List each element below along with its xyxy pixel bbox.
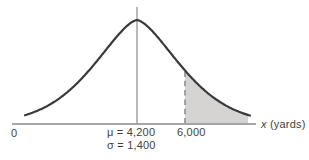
shaded-right-tail-region (185, 71, 248, 124)
mean-value-label: μ = 4,200 (107, 126, 155, 139)
x-axis-label: x (yards) (261, 118, 306, 131)
origin-tick-label: 0 (11, 127, 17, 140)
normal-distribution-figure: 0 μ = 4,200 σ = 1,400 6,000 x (yards) (0, 0, 309, 160)
cutoff-tick-label: 6,000 (177, 126, 206, 139)
x-axis-unit: (yards) (267, 118, 306, 130)
sigma-value-label: σ = 1,400 (107, 139, 156, 152)
